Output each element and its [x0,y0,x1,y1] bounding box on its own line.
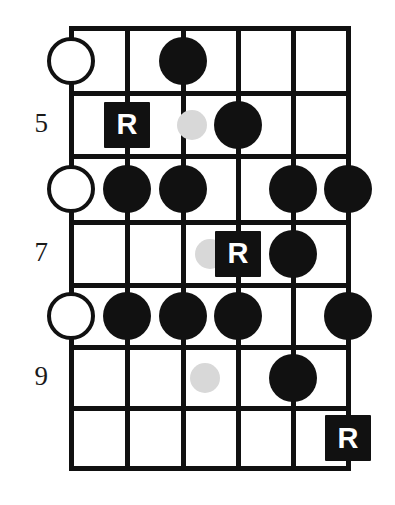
ghost-note-marker [190,363,220,393]
string-line-2 [125,26,130,471]
fretboard-diagram: 579RRR [0,0,395,505]
filled-note-marker [269,230,317,278]
string-line-6 [346,26,351,471]
filled-note-marker [324,165,372,213]
open-note-marker [47,165,95,213]
filled-note-marker [214,101,262,149]
string-line-1 [69,26,74,471]
fret-line-4 [69,283,351,288]
filled-note-marker [159,37,207,85]
filled-note-marker [103,165,151,213]
fret-line-6 [69,406,351,411]
fret-line-5 [69,345,351,350]
fret-number-label: 5 [14,110,48,137]
nut-line [69,26,351,31]
root-note-label: R [228,239,249,268]
fret-line-2 [69,154,351,159]
root-note-marker: R [104,102,150,148]
root-note-label: R [338,424,359,453]
root-note-marker: R [325,415,371,461]
filled-note-marker [269,354,317,402]
fret-number-label: 7 [14,239,48,266]
filled-note-marker [324,292,372,340]
root-note-marker: R [215,231,261,277]
fret-line-7 [69,466,351,471]
ghost-note-marker [177,110,207,140]
filled-note-marker [159,292,207,340]
string-line-3 [181,26,186,471]
filled-note-marker [103,292,151,340]
fret-number-label: 9 [14,363,48,390]
fret-line-1 [69,91,351,96]
root-note-label: R [117,110,138,139]
filled-note-marker [214,292,262,340]
filled-note-marker [269,165,317,213]
fret-line-3 [69,220,351,225]
open-note-marker [47,292,95,340]
filled-note-marker [159,165,207,213]
open-note-marker [47,37,95,85]
